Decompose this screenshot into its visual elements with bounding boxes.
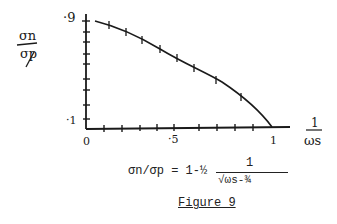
formula: σn/σp = 1-½ 1 √ωs-¾	[128, 156, 288, 192]
formula-lhs: σn/σp = 1-½	[128, 164, 207, 178]
formula-fraction-bar	[216, 172, 288, 173]
y-axis-title-bar	[17, 43, 37, 45]
y-axis-title-den: σp	[20, 46, 37, 61]
y-label-bottom: ·1	[66, 114, 77, 127]
y-axis-title-num: σn	[19, 28, 37, 43]
formula-denominator: √ωs-¾	[218, 174, 251, 186]
formula-numerator: 1	[246, 156, 253, 170]
x-axis	[86, 127, 290, 129]
x-label-mid: ·5	[168, 133, 179, 146]
y-label-top: ·9	[63, 10, 75, 25]
x-label-one: 1	[270, 134, 277, 147]
x-axis-title-num: 1	[311, 116, 319, 130]
x-axis-title-den: ωs	[304, 133, 321, 148]
figure-caption: Figure 9	[178, 196, 236, 210]
x-label-zero: 0	[83, 135, 90, 148]
data-curve	[95, 21, 272, 127]
